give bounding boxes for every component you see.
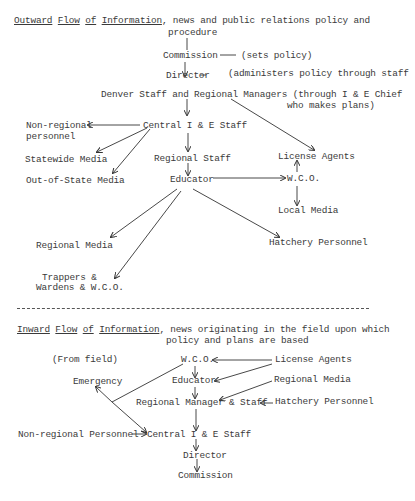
- node-license-agents-inward: License Agents: [275, 354, 352, 365]
- heading-word: Information: [99, 324, 159, 335]
- node-central-staff: Central I & E Staff: [143, 120, 247, 131]
- note-sets-policy: (sets policy): [241, 50, 312, 61]
- outward-heading: Outward Flow of Information, news and pu…: [14, 15, 370, 26]
- node-trappers-line2: Wardens & W.C.O.: [36, 282, 124, 293]
- node-commission: Commission: [163, 50, 218, 61]
- node-wco: W.C.O.: [287, 173, 320, 184]
- node-license-agents: License Agents: [278, 151, 355, 162]
- node-director: Director: [166, 70, 210, 81]
- node-wco-inward: W.C.O.: [181, 354, 214, 365]
- heading-word: Information: [102, 15, 162, 26]
- node-statewide-media: Statewide Media: [25, 154, 107, 165]
- node-out-of-state-media: Out-of-State Media: [26, 175, 125, 186]
- node-nonregional: Non-regional: [26, 120, 92, 131]
- node-regional-manager: Regional Manager & Staff: [136, 397, 267, 408]
- node-local-media: Local Media: [278, 205, 338, 216]
- node-commission-inward: Commission: [178, 470, 233, 481]
- node-nonregional-line2: personnel: [26, 131, 75, 142]
- node-denver-staff: Denver Staff and Regional Managers (thro…: [101, 89, 402, 100]
- node-hatchery-personnel: Hatchery Personnel: [269, 237, 368, 248]
- node-central-inward: Central I & E Staff: [147, 429, 251, 440]
- node-educator: Educator: [170, 174, 214, 185]
- inward-heading: Inward Flow of Information, news origina…: [17, 324, 389, 335]
- node-nonregional-inward: Non-regional Personnel: [18, 429, 138, 440]
- note-administers: (administers policy through staff: [228, 68, 409, 79]
- heading-word: of: [83, 324, 94, 335]
- node-denver-staff-line2: who makes plans): [287, 100, 375, 111]
- heading-rest: , news and public relations policy and: [162, 15, 370, 26]
- heading-word: Outward: [14, 15, 52, 26]
- node-regional-media-inward: Regional Media: [274, 374, 351, 385]
- section-divider: [17, 308, 369, 309]
- heading-word: Flow: [58, 15, 80, 26]
- outward-heading-line2: procedure: [168, 27, 217, 38]
- heading-word: of: [85, 15, 96, 26]
- inward-heading-line2: policy and plans are based: [166, 335, 308, 346]
- node-emergency: Emergency: [73, 376, 122, 387]
- heading-rest: , news originating in the field upon whi…: [159, 324, 389, 335]
- heading-word: Inward: [17, 324, 50, 335]
- node-director-inward: Director: [183, 450, 227, 461]
- node-from-field: (From field): [52, 354, 118, 365]
- node-regional-media: Regional Media: [36, 240, 113, 251]
- node-educator-inward: Educator: [172, 375, 216, 386]
- node-regional-staff: Regional Staff: [154, 153, 231, 164]
- heading-word: Flow: [55, 324, 77, 335]
- node-hatchery-inward: Hatchery Personnel: [275, 396, 374, 407]
